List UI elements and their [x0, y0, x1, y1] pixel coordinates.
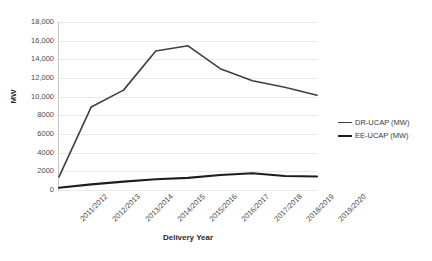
series-line: [59, 173, 317, 187]
legend-swatch-icon: [338, 122, 352, 123]
x-axis-tick: 2014/2015: [175, 192, 206, 223]
y-axis-tick: 2000: [18, 168, 54, 176]
gridline: [59, 190, 317, 191]
series-lines: [59, 22, 317, 190]
series-line: [59, 46, 317, 177]
x-axis-tick: 2017/2018: [272, 192, 303, 223]
y-axis-tick: 8000: [18, 112, 54, 120]
y-axis-tick: 0: [18, 186, 54, 194]
x-axis-tick: 2019/2020: [336, 192, 367, 223]
legend-item[interactable]: EE-UCAP (MW): [338, 129, 430, 142]
x-axis-tick: 2015/2016: [207, 192, 238, 223]
y-axis-tick: 10,000: [18, 93, 54, 101]
x-axis-tick: 2013/2014: [143, 192, 174, 223]
plot-area: [59, 22, 317, 190]
x-axis-tick: 2011/2012: [78, 192, 109, 223]
y-axis-tick: 4000: [18, 149, 54, 157]
y-axis-tick: 16,000: [18, 37, 54, 45]
chart-legend: DR-UCAP (MW)EE-UCAP (MW): [338, 116, 430, 142]
x-axis-tick: 2018/2019: [304, 192, 335, 223]
legend-item[interactable]: DR-UCAP (MW): [338, 116, 430, 129]
legend-label: DR-UCAP (MW): [355, 119, 409, 127]
line-chart: MW 18,00016,00014,00012,00010,0008000600…: [0, 0, 432, 261]
legend-swatch-icon: [338, 135, 352, 137]
y-axis-tick-labels: 18,00016,00014,00012,00010,0008000600040…: [18, 22, 54, 190]
y-axis-tick: 18,000: [18, 18, 54, 26]
y-axis-title: MW: [9, 86, 18, 108]
x-axis-tick-labels: 2011/20122012/20132013/20142014/20152015…: [59, 192, 317, 226]
y-axis-tick: 12,000: [18, 74, 54, 82]
legend-label: EE-UCAP (MW): [355, 132, 409, 140]
x-axis-tick: 2012/2013: [111, 192, 142, 223]
y-axis-tick: 6000: [18, 130, 54, 138]
y-axis-tick: 14,000: [18, 56, 54, 64]
x-axis-tick: 2016/2017: [240, 192, 271, 223]
x-axis-title: Delivery Year: [59, 233, 317, 242]
